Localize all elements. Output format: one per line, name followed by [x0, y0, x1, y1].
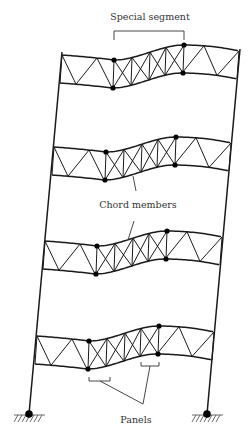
ground-hatch	[196, 415, 200, 422]
special-vertical	[166, 231, 167, 259]
hinge-node	[156, 323, 161, 328]
hinge-node	[164, 228, 169, 233]
panel-bracket	[141, 362, 159, 366]
diagonal	[179, 327, 192, 357]
special-vertical	[140, 328, 141, 356]
hinge-node	[94, 243, 99, 248]
diagonal	[54, 147, 68, 176]
left-column	[29, 52, 62, 414]
bottom-chord	[52, 165, 228, 180]
special-vertical	[175, 137, 176, 165]
pin-node	[25, 410, 33, 418]
special-vertical	[105, 152, 106, 180]
diagonal	[68, 150, 89, 176]
diagonal	[51, 339, 72, 365]
special-segment-label: Special segment	[110, 11, 190, 22]
diagonal	[217, 51, 239, 75]
ground-hatch	[18, 415, 22, 422]
ground-hatch	[200, 415, 204, 422]
diagonal	[62, 55, 76, 84]
diagonal	[182, 46, 204, 73]
special-vertical	[148, 233, 149, 261]
ground-hatch	[216, 415, 220, 422]
special-vertical	[123, 150, 124, 178]
diagonal	[76, 58, 97, 84]
special-vertical	[131, 58, 132, 86]
hinge-node	[181, 42, 186, 47]
truss-level-1	[35, 323, 214, 371]
diagonal	[174, 138, 196, 165]
bottom-chord	[60, 73, 236, 88]
ground-hatch	[192, 415, 196, 422]
panel-leader-line	[143, 366, 150, 404]
ground-hatch	[212, 415, 216, 422]
bottom-chord	[35, 354, 211, 369]
panels-label: Panels	[120, 414, 151, 425]
special-vertical	[132, 238, 133, 266]
ground-hatch	[34, 415, 38, 422]
ground-hatch	[22, 415, 26, 422]
hinge-node	[180, 70, 185, 75]
pin-node	[203, 410, 211, 418]
special-vertical	[106, 339, 107, 367]
diagonal	[37, 336, 51, 365]
special-segment-bracket	[114, 31, 184, 40]
ground-hatch	[38, 415, 42, 422]
diagonal	[200, 237, 222, 261]
hinge-node	[111, 57, 116, 62]
special-vertical	[157, 139, 158, 167]
hinge-node	[173, 134, 178, 139]
special-vertical	[114, 244, 115, 272]
special-vertical	[165, 47, 166, 75]
special-vertical	[88, 341, 89, 369]
diagonal	[209, 143, 231, 167]
stmf-diagram: Special segment Chord members Panels	[0, 0, 248, 442]
diagonal	[80, 244, 95, 274]
hinge-node	[110, 85, 115, 90]
truss-level-3	[52, 134, 231, 182]
bottom-chord	[43, 259, 219, 274]
special-vertical	[183, 45, 184, 73]
diagonal	[192, 332, 214, 356]
truss-level-4	[60, 42, 239, 90]
special-vertical	[149, 52, 150, 80]
hinge-node	[85, 366, 90, 371]
hinge-node	[102, 177, 107, 182]
special-vertical	[96, 246, 97, 274]
diagonal	[72, 339, 87, 369]
diagonal	[187, 232, 200, 262]
diagonal	[45, 241, 59, 270]
diagonal	[59, 244, 80, 270]
diagonal	[204, 46, 217, 76]
truss-level-2	[43, 228, 222, 276]
special-vertical	[113, 60, 114, 88]
hinge-node	[103, 149, 108, 154]
diagonal	[196, 138, 209, 168]
hinge-node	[86, 338, 91, 343]
hinge-node	[93, 271, 98, 276]
hinge-node	[155, 351, 160, 356]
diagonal	[89, 150, 104, 180]
panel-leader-line	[100, 381, 143, 404]
chord-leader-line	[133, 176, 136, 191]
panel-bracket	[89, 377, 110, 381]
right-pin-support	[192, 410, 223, 422]
special-vertical	[141, 144, 142, 172]
left-pin-support	[14, 410, 45, 422]
chord-members-label: Chord members	[99, 199, 177, 210]
special-vertical	[158, 326, 159, 354]
ground-hatch	[14, 415, 18, 422]
pin-supports	[14, 410, 223, 422]
hinge-node	[163, 256, 168, 261]
hinge-node	[172, 162, 177, 167]
diagonal	[165, 232, 187, 259]
diagonal	[157, 327, 179, 354]
special-vertical	[124, 333, 125, 361]
diagonal	[97, 58, 112, 88]
chord-leader-line	[128, 221, 134, 240]
